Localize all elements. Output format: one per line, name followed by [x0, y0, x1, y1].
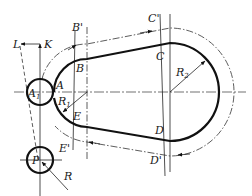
label-e-prime: E'	[58, 142, 70, 155]
b-e-slanted-line	[73, 30, 75, 150]
label-k: K	[43, 38, 53, 51]
c-d-slanted-line	[160, 14, 165, 176]
label-r1: R1	[57, 95, 71, 109]
label-c: C	[156, 50, 165, 63]
label-b: B	[75, 62, 84, 75]
label-d: D	[154, 124, 164, 137]
label-r: R	[63, 170, 72, 183]
label-p: P	[31, 154, 40, 167]
label-a: A	[55, 79, 64, 92]
label-a1: A1	[27, 87, 40, 101]
label-c-prime: C'	[148, 12, 159, 25]
cam-contour-diagram: L K B' C' B C A A1 R1 R2 E D E' D' P R	[0, 0, 252, 196]
label-d-prime: D'	[149, 154, 162, 167]
label-l: L	[12, 38, 20, 51]
label-b-prime: B'	[71, 21, 83, 34]
pitch-arrow-bottom-right	[178, 154, 190, 155]
label-e: E	[72, 110, 81, 123]
label-r2: R2	[175, 66, 189, 80]
